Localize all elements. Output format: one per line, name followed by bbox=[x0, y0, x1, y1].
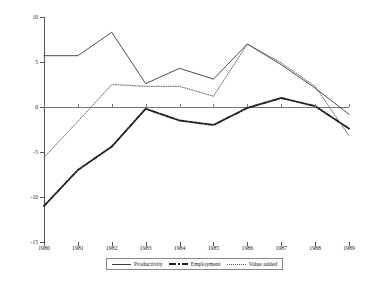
legend-item-value-added: Value added bbox=[227, 260, 278, 268]
legend-item-employment: Employment bbox=[169, 260, 221, 268]
series-line-employment bbox=[44, 98, 349, 206]
zero-line-tick bbox=[213, 104, 214, 107]
line-chart: Percentage 1050-5-10-15 1980198119821983… bbox=[0, 0, 371, 282]
zero-line-tick bbox=[349, 104, 350, 107]
zero-line-tick bbox=[146, 104, 147, 107]
legend-swatch-dotted-icon bbox=[227, 261, 246, 268]
zero-line-tick bbox=[44, 104, 45, 107]
legend-label-value-added: Value added bbox=[249, 260, 278, 268]
legend-item-productivity: Productivity bbox=[112, 260, 163, 268]
zero-line-tick bbox=[315, 104, 316, 107]
zero-line-tick bbox=[281, 104, 282, 107]
series-line-value-added bbox=[44, 44, 349, 157]
zero-line-tick bbox=[247, 104, 248, 107]
chart-legend: Productivity Employment Value added bbox=[106, 258, 283, 270]
series-layer bbox=[0, 0, 371, 282]
legend-swatch-solid-icon bbox=[112, 261, 131, 268]
series-line-productivity bbox=[44, 32, 349, 114]
zero-line-tick bbox=[180, 104, 181, 107]
zero-line-tick bbox=[78, 104, 79, 107]
legend-swatch-dashdot-icon bbox=[169, 261, 188, 268]
legend-label-employment: Employment bbox=[191, 260, 221, 268]
zero-line-tick bbox=[112, 104, 113, 107]
legend-label-productivity: Productivity bbox=[134, 260, 163, 268]
